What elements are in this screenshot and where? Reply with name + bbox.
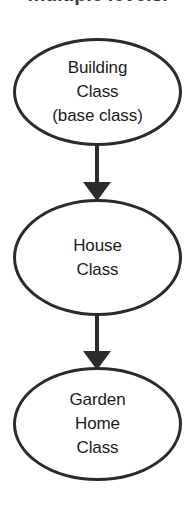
inheritance-hierarchy-diagram: multiple levels. Building Class (base cl… bbox=[0, 0, 195, 509]
arrow-building-to-house-icon bbox=[83, 144, 111, 201]
arrow-shaft bbox=[95, 313, 99, 353]
node-house-class: House Class bbox=[13, 199, 182, 316]
arrow-house-to-garden-home-icon bbox=[83, 313, 111, 370]
node-garden-home-class: Garden Home Class bbox=[13, 367, 182, 481]
node-house-class-label: House Class bbox=[73, 234, 122, 282]
node-building-class-label: Building Class (base class) bbox=[52, 56, 142, 128]
clipped-caption-text: multiple levels. bbox=[0, 0, 195, 9]
arrow-shaft bbox=[95, 144, 99, 184]
node-garden-home-class-label: Garden Home Class bbox=[69, 388, 125, 460]
node-building-class: Building Class (base class) bbox=[13, 38, 182, 146]
